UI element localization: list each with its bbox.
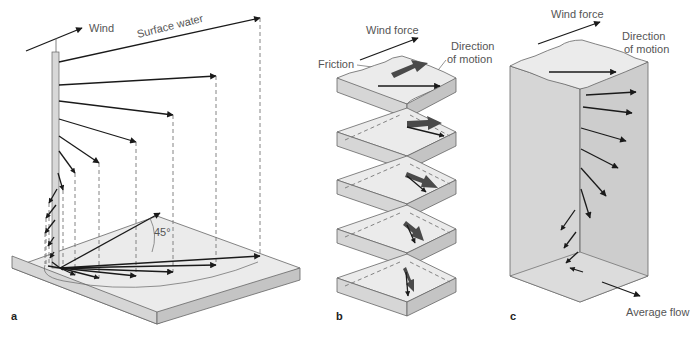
- direction-of-motion-label-b-2: of motion: [447, 53, 492, 65]
- wind-arrow: [26, 28, 82, 51]
- wind-label: Wind: [89, 22, 114, 34]
- water-column-box: [510, 40, 648, 302]
- panel-a: Wind Surface water: [11, 12, 300, 324]
- panel-c: Wind force Direction of motion Average f…: [510, 8, 689, 322]
- angle-label: 45°: [154, 226, 171, 238]
- panel-b: Wind force Friction Direction of motion: [318, 24, 494, 322]
- direction-of-motion-label-c-2: of motion: [624, 43, 669, 55]
- average-flow-label: Average flow: [626, 306, 689, 318]
- wind-force-label-c: Wind force: [551, 8, 604, 20]
- direction-of-motion-label-b-1: Direction: [451, 40, 494, 52]
- panel-c-letter: c: [510, 310, 516, 322]
- wind-force-arrow-c: [538, 22, 600, 44]
- surface-water-label: Surface water: [136, 12, 205, 40]
- friction-label: Friction: [318, 58, 354, 70]
- ekman-spiral-figure: Wind Surface water: [0, 0, 691, 337]
- panel-b-letter: b: [336, 310, 343, 322]
- wind-force-label-b: Wind force: [366, 24, 419, 36]
- direction-of-motion-label-c-1: Direction: [622, 30, 665, 42]
- wind-force-arrow-b: [360, 38, 418, 60]
- panel-a-letter: a: [11, 310, 18, 322]
- layer-5: [337, 254, 456, 316]
- depth-pole: [52, 52, 59, 268]
- layer-1: [337, 56, 456, 118]
